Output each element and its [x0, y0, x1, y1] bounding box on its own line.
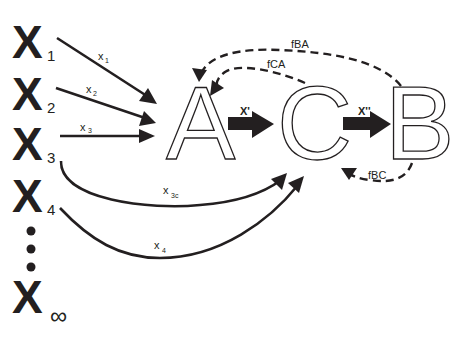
svg-text:2: 2: [93, 90, 97, 97]
arrow-x2-to-a: x 2: [56, 83, 156, 126]
svg-text:3: 3: [47, 149, 55, 166]
input-x3: X 3: [12, 118, 55, 170]
svg-text:3: 3: [88, 127, 92, 134]
svg-text:x: x: [163, 184, 169, 196]
svg-text:3c: 3c: [171, 192, 179, 199]
svg-text:X: X: [12, 118, 43, 170]
node-a: A: [166, 65, 236, 181]
input-x4: X 4: [12, 170, 55, 222]
svg-text:X: X: [12, 68, 43, 120]
metabolic-network-diagram: X 1 X 2 X 3 X 4 X ∞ x 1 x 2 x 3: [0, 0, 462, 337]
svg-text:X'': X'': [358, 105, 371, 117]
svg-text:4: 4: [162, 247, 166, 254]
svg-text:x: x: [86, 83, 92, 95]
svg-text:x: x: [154, 239, 160, 251]
svg-text:fBA: fBA: [291, 38, 309, 50]
input-x2: X 2: [12, 68, 55, 120]
svg-text:1: 1: [105, 57, 109, 64]
svg-text:X: X: [12, 16, 43, 68]
svg-text:4: 4: [47, 201, 55, 218]
svg-text:fBC: fBC: [368, 169, 386, 181]
input-x-infinity: X ∞: [12, 271, 67, 329]
ellipsis-dots: [27, 227, 36, 272]
node-c: C: [277, 65, 352, 181]
svg-text:X: X: [12, 170, 43, 222]
node-b: B: [385, 65, 454, 181]
svg-text:∞: ∞: [50, 302, 67, 329]
svg-text:X: X: [12, 271, 43, 323]
svg-text:x: x: [98, 50, 104, 62]
svg-text:X': X': [240, 105, 250, 117]
svg-text:2: 2: [47, 99, 55, 116]
input-x1: X 1: [12, 16, 55, 68]
svg-text:fCA: fCA: [267, 58, 286, 70]
svg-text:x: x: [80, 121, 86, 133]
svg-text:1: 1: [47, 47, 55, 64]
